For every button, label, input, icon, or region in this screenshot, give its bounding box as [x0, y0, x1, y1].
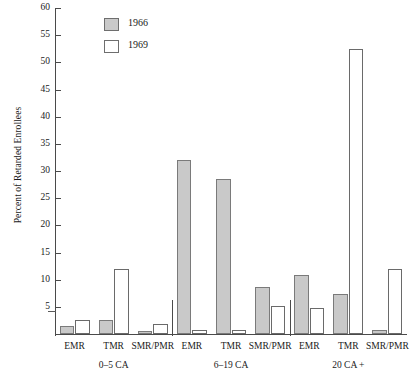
y-axis-tick-label: 25: [26, 192, 50, 202]
x-axis-category-label: SMR/PMR: [357, 341, 410, 351]
y-axis-tick-label: 55: [26, 29, 50, 39]
bar-1969-EMR-g2: [192, 330, 207, 334]
y-axis-tick-label: 40: [26, 111, 50, 121]
y-axis-title: Percent of Retarded Enrollees: [13, 65, 23, 265]
bar-1966-TMR-g1: [99, 320, 114, 334]
bar-1966-SMR-PMR-g2: [255, 287, 270, 334]
bar-1969-SMR-PMR-g1: [153, 324, 168, 334]
bar-1966-EMR-g3: [294, 275, 309, 334]
bar-1966-TMR-g2: [216, 179, 231, 334]
y-axis-tick-label: 45: [26, 84, 50, 94]
group-separator: [290, 300, 291, 336]
bar-1969-SMR-PMR-g3: [388, 269, 403, 334]
bar-1969-TMR-g1: [114, 269, 129, 334]
bar-1969-TMR-g2: [232, 330, 247, 334]
group-separator: [172, 300, 173, 336]
y-axis-tick-label: 30: [26, 165, 50, 175]
y-axis-tick-label: 35: [26, 138, 50, 148]
bar-1969-EMR-g1: [75, 320, 90, 334]
bar-chart: Percent of Retarded Enrollees 5101520253…: [0, 0, 410, 387]
x-axis-group-label: 20 CA +: [298, 360, 398, 370]
bar-1966-SMR-PMR-g3: [372, 330, 387, 334]
bar-1966-EMR-g2: [177, 160, 192, 334]
bar-1969-TMR-g3: [349, 49, 364, 334]
bar-1969-EMR-g3: [310, 308, 325, 334]
bar-1969-SMR-PMR-g2: [271, 306, 286, 334]
y-axis-tick-label: 60: [26, 2, 50, 12]
bar-1966-TMR-g3: [333, 294, 348, 334]
y-axis-tick-label: 5: [26, 301, 50, 311]
y-axis-tick-label: 15: [26, 247, 50, 257]
y-axis-tick-label: 20: [26, 219, 50, 229]
bar-1966-SMR-PMR-g1: [138, 331, 153, 334]
y-axis-tick-label: 10: [26, 274, 50, 284]
x-axis-group-label: 0–5 CA: [64, 360, 164, 370]
plot-area: [55, 8, 407, 334]
x-axis-group-label: 6–19 CA: [181, 360, 281, 370]
x-axis-line: [55, 334, 407, 335]
y-axis-tick-label: 50: [26, 56, 50, 66]
bar-1966-EMR-g1: [60, 326, 75, 334]
